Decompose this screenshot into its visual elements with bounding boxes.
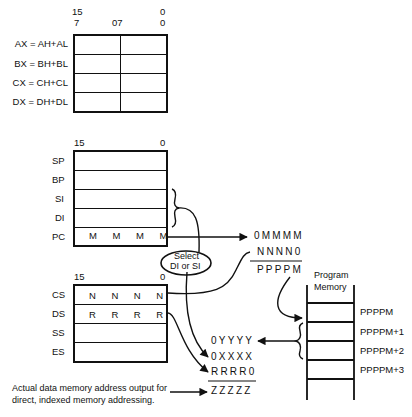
caption-line2: direct, indexed memory addressing. xyxy=(12,395,155,405)
memory-location-1: PPPPM+1 xyxy=(360,326,404,337)
data-sum-result: ZZZZZ xyxy=(211,385,253,396)
arrow-select-to-xxxx xyxy=(186,272,208,357)
data-sum-operand3: RRRR0 xyxy=(211,366,256,377)
program-memory-stack xyxy=(307,285,354,400)
caption-line1: Actual data memory address output for xyxy=(12,383,167,393)
program-sum-operand2: NNNN0 xyxy=(257,246,302,257)
select-oval-line2: DI or SI xyxy=(170,261,201,271)
memory-location-2: PPPPM+2 xyxy=(360,345,404,356)
arrow-sum-to-program-memory xyxy=(278,277,302,318)
connector-brace-to-select xyxy=(178,208,199,252)
program-sum-result: PPPPM xyxy=(257,264,303,275)
brace-si-di xyxy=(172,189,179,227)
memory-location-3: PPPPM+3 xyxy=(360,364,404,375)
program-sum-operand1: 0MMMM xyxy=(254,230,304,241)
memory-location-0: PPPPM xyxy=(360,306,393,317)
arrow-ds-to-rrrr0 xyxy=(168,313,208,372)
select-oval-line1: Select xyxy=(174,251,199,261)
data-sum-operand2: 0XXXX xyxy=(211,351,254,362)
program-memory-title-line1: Program xyxy=(314,270,349,280)
data-sum-operand1: 0YYYY xyxy=(211,335,254,346)
program-memory-title-line2: Memory xyxy=(314,282,347,292)
connector-graphics xyxy=(0,0,412,417)
brace-program-memory xyxy=(296,323,303,359)
